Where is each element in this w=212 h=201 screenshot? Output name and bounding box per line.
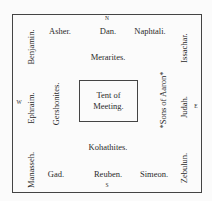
levites-gershonites: Gershonites.	[52, 83, 61, 126]
tribe-naphtali: Naphtali.	[134, 27, 165, 36]
tribe-manasseh: Manasseh.	[27, 152, 36, 188]
tent-of-meeting: Tent of Meeting.	[79, 80, 138, 122]
levites-sons-of-aaron: *Sons of Aaron*	[159, 71, 168, 128]
compass-south: S	[105, 183, 108, 189]
levites-merarites: Merarites.	[91, 53, 126, 62]
tribe-zebulun: Zebulun.	[180, 153, 189, 183]
tribe-dan: Dan.	[100, 27, 116, 36]
tribe-gad: Gad.	[48, 170, 64, 179]
tribe-ephraim: Ephraim.	[27, 92, 36, 123]
tribe-benjamin: Benjamin.	[27, 29, 36, 64]
tent-label-line1: Tent of	[96, 90, 120, 101]
compass-east: E	[194, 104, 197, 110]
tribe-issachar: Issachar.	[180, 33, 189, 63]
compass-north: N	[105, 16, 109, 22]
levites-kohathites: Kohathites.	[89, 143, 128, 152]
tent-label-line2: Meeting.	[93, 101, 123, 112]
tribe-judah: Judah.	[180, 96, 189, 118]
tribe-reuben: Reuben.	[94, 170, 122, 179]
compass-west: W	[16, 100, 21, 106]
tribe-asher: Asher.	[49, 27, 71, 36]
tribe-simeon: Simeon.	[140, 170, 168, 179]
